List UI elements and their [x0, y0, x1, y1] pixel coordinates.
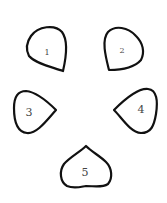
petal-shape-4: 4 — [114, 89, 157, 133]
petal-label-4: 4 — [138, 103, 145, 116]
petal-diagram: 1 2 3 4 5 — [0, 0, 167, 203]
petal-label-3: 3 — [26, 106, 33, 119]
petal-label-2: 2 — [119, 46, 124, 55]
petal-shape-2: 2 — [104, 28, 143, 70]
petal-shape-1: 1 — [27, 27, 66, 71]
petal-label-1: 1 — [44, 48, 49, 57]
petal-label-5: 5 — [82, 166, 89, 179]
petal-shape-3: 3 — [14, 91, 56, 133]
petal-shape-5: 5 — [61, 146, 111, 188]
